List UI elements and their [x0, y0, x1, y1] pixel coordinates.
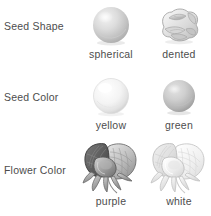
trait-variant: yellow	[78, 76, 144, 131]
dark-seed-icon	[146, 76, 211, 118]
trait-variant: white	[146, 138, 211, 207]
variant-label-yellow: yellow	[78, 119, 144, 131]
pale-flower-icon	[146, 138, 211, 194]
wrinkled-seed-icon	[146, 5, 211, 47]
trait-row: Seed Shape	[0, 0, 211, 70]
trait-row: Flower Color	[0, 136, 211, 216]
pale-seed-icon	[78, 76, 144, 118]
trait-row: Seed Color	[0, 70, 211, 140]
trait-label-seed-shape: Seed Shape	[4, 20, 82, 32]
dark-flower-icon	[78, 138, 144, 194]
trait-variant: purple	[78, 138, 144, 207]
round-seed-icon	[78, 5, 144, 47]
trait-figure: Seed Shape	[0, 0, 211, 216]
trait-label-seed-color: Seed Color	[4, 91, 82, 103]
variant-label-purple: purple	[78, 195, 144, 207]
trait-variant: dented	[146, 5, 211, 60]
trait-variant: green	[146, 76, 211, 131]
variant-label-white: white	[146, 195, 211, 207]
trait-label-flower-color: Flower Color	[4, 164, 82, 176]
variant-label-spherical: spherical	[78, 48, 144, 60]
trait-variant: spherical	[78, 5, 144, 60]
variant-label-green: green	[146, 119, 211, 131]
variant-label-dented: dented	[146, 48, 211, 60]
